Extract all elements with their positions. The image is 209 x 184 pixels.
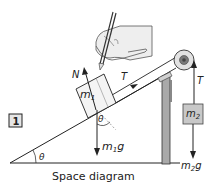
pulley — [174, 50, 194, 70]
figure-number: 1 — [13, 116, 20, 127]
weight-arrow-m2 — [190, 124, 196, 159]
angle-arc-base — [33, 150, 36, 163]
tension-label-block: T — [121, 71, 128, 82]
tension-label-m2: T — [197, 75, 204, 86]
weight-label-m1: m1g — [102, 140, 124, 154]
angle-label-base: θ — [39, 152, 45, 162]
space-diagram: m1 N T m1g θ θ T m2 m2g 1 — [0, 0, 209, 184]
normal-force-label: N — [72, 69, 80, 80]
hand-illustration — [96, 12, 152, 70]
diagram-caption: Space diagram — [52, 170, 135, 183]
angle-label-block: θ — [98, 114, 104, 124]
support-post — [158, 72, 172, 164]
tension-arrow-block — [130, 84, 138, 89]
weight-label-m2: m2g — [181, 160, 202, 173]
